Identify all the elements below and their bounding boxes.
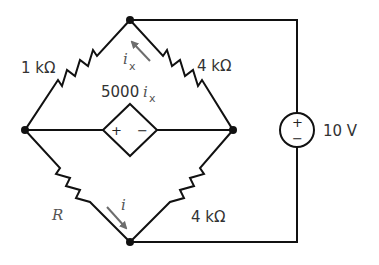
resistor-4k-top (130, 20, 233, 130)
svg-text:i: i (123, 50, 128, 68)
dependent-voltage-source: + − (25, 104, 233, 156)
label-dependent-source: 5000 i x (101, 83, 156, 105)
svg-text:i: i (143, 83, 148, 101)
source-minus-sign: − (292, 131, 303, 146)
label-ix: i x (123, 50, 136, 73)
svg-text:5000: 5000 (101, 83, 139, 101)
node-left (21, 126, 29, 134)
label-1k: 1 kΩ (21, 59, 55, 77)
label-4k-top: 4 kΩ (197, 57, 231, 75)
dep-plus-sign: + (111, 123, 122, 138)
current-ix-arrow (132, 42, 150, 61)
dep-minus-sign: − (137, 123, 148, 138)
node-top (126, 16, 134, 24)
voltage-source-10v: + − (280, 113, 314, 147)
svg-text:x: x (129, 60, 136, 73)
node-bottom (126, 238, 134, 246)
label-10v: 10 V (323, 122, 358, 140)
svg-text:x: x (149, 92, 156, 105)
circuit-diagram: + − + − 1 kΩ 4 kΩ 4 kΩ R 10 V i x i 5000… (0, 0, 379, 265)
label-4k-bottom: 4 kΩ (191, 208, 225, 226)
label-i: i (121, 196, 126, 214)
label-r: R (51, 206, 63, 224)
resistor-r (25, 130, 130, 242)
node-right (229, 126, 237, 134)
source-plus-sign: + (292, 115, 303, 130)
